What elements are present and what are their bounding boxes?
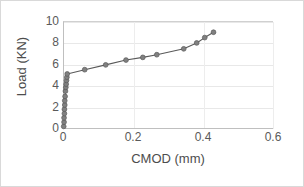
gridline-horizontal <box>64 65 274 66</box>
x-tick-label: 0.4 <box>183 131 223 144</box>
x-axis-line <box>63 128 273 129</box>
gridline-vertical <box>204 22 205 129</box>
y-tick-label: 6 <box>35 58 59 70</box>
x-tick-label: 0.6 <box>253 131 293 144</box>
x-axis-title: CMOD (mm) <box>63 151 273 166</box>
gridline-vertical <box>134 22 135 129</box>
y-tick-label: 2 <box>35 101 59 113</box>
chart-figure: 10 8 6 4 2 0 0 0.2 0.4 0.6 CMOD (mm) Loa… <box>0 0 304 187</box>
x-tick-label: 0.2 <box>113 131 153 144</box>
y-tick-label: 8 <box>35 36 59 48</box>
plot-area <box>63 21 273 128</box>
gridline-horizontal <box>64 108 274 109</box>
y-tick-label: 10 <box>35 15 59 27</box>
gridline-horizontal <box>64 43 274 44</box>
gridline-horizontal <box>64 86 274 87</box>
gridline-horizontal <box>64 22 274 23</box>
y-tick-label: 4 <box>35 79 59 91</box>
y-axis-title: Load (KN) <box>14 17 29 117</box>
x-tick-label: 0 <box>43 131 83 144</box>
y-axis-tick-labels: 10 8 6 4 2 0 <box>31 1 59 187</box>
gridline-vertical <box>273 22 274 129</box>
